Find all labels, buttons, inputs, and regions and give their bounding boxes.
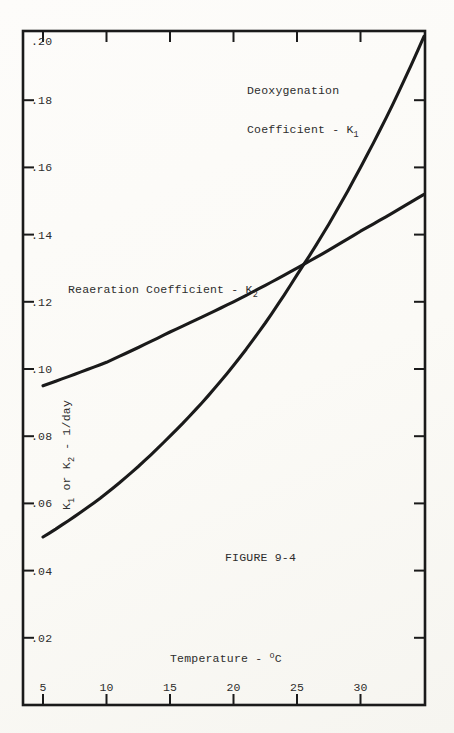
- k1-curve-label: Deoxygenation Coefficient - K1: [247, 58, 359, 164]
- y-tick-label: .12: [31, 295, 52, 308]
- x-tick-label: 5: [39, 681, 46, 694]
- k1-curve-label-line1: Deoxygenation: [247, 84, 359, 97]
- y-tick-label: .18: [31, 94, 52, 107]
- y-tick-label: .06: [31, 497, 52, 510]
- y-tick-label: .04: [31, 564, 52, 577]
- y-tick-label: .14: [31, 228, 52, 241]
- x-tick-label: 15: [163, 681, 177, 694]
- x-tick-label: 25: [290, 681, 304, 694]
- k2-curve-label: Reaeration Coefficient - K2: [68, 283, 258, 298]
- y-tick-label: .16: [31, 161, 52, 174]
- x-tick-label: 10: [99, 681, 113, 694]
- plot-frame: [23, 31, 425, 705]
- x-tick-label: 30: [353, 681, 367, 694]
- y-tick-label: .20: [31, 35, 52, 48]
- k1-curve-label-line2: Coefficient - K1: [247, 123, 359, 138]
- x-tick-label: 20: [226, 681, 240, 694]
- figure-page: Deoxygenation Coefficient - K1 Reaeratio…: [0, 0, 454, 733]
- y-tick-label: .10: [31, 363, 52, 376]
- y-tick-label: .08: [31, 430, 52, 443]
- y-axis-title: K1 or K2 - 1/day: [60, 400, 75, 510]
- figure-caption: FIGURE 9-4: [225, 551, 296, 564]
- x-axis-title: Temperature - oC: [170, 652, 282, 667]
- chart-canvas: [0, 0, 454, 733]
- y-tick-label: .02: [31, 631, 52, 644]
